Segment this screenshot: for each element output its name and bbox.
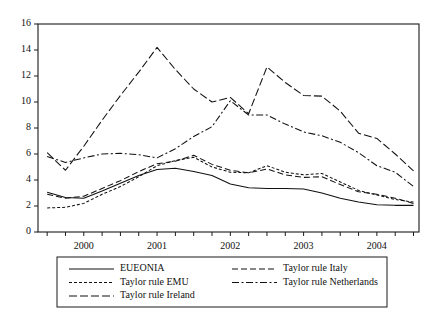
legend-label: EUEONIA [120, 262, 165, 273]
plot-area [38, 24, 419, 232]
data-series-group [47, 47, 413, 208]
legend-label: Taylor rule EMU [120, 276, 190, 287]
y-tick-label: 0 [26, 225, 31, 236]
legend-label: Taylor rule Italy [283, 262, 348, 273]
y-tick-label: 14 [21, 43, 31, 54]
series-line-eueonia [47, 168, 413, 205]
line-chart: 0246810121416 20002001200220032004 EUEON… [0, 0, 432, 324]
y-tick-label: 10 [21, 95, 31, 106]
x-tick-label: 2000 [74, 240, 94, 251]
y-tick-label: 8 [26, 121, 31, 132]
x-tick-label: 2002 [220, 240, 240, 251]
series-line-taylor-rule-italy [47, 155, 413, 203]
series-line-taylor-rule-netherlands [47, 101, 413, 187]
y-tick-label: 4 [26, 173, 31, 184]
x-tick-label: 2003 [294, 240, 314, 251]
chart-legend: EUEONIATaylor rule EMUTaylor rule Irelan… [57, 257, 387, 307]
series-line-taylor-rule-emu [47, 157, 413, 208]
legend-label: Taylor rule Netherlands [283, 276, 378, 287]
x-tick-label: 2001 [147, 240, 167, 251]
y-tick-label: 12 [21, 69, 31, 80]
y-axis: 0246810121416 [21, 17, 38, 236]
y-tick-label: 6 [26, 147, 31, 158]
x-axis: 20002001200220032004 [47, 232, 413, 251]
y-tick-label: 2 [26, 199, 31, 210]
plot-frame [38, 24, 419, 232]
series-line-taylor-rule-ireland [47, 47, 413, 170]
x-tick-label: 2004 [367, 240, 387, 251]
y-tick-label: 16 [21, 17, 31, 28]
legend-label: Taylor rule Ireland [120, 289, 195, 300]
chart-container: 0246810121416 20002001200220032004 EUEON… [0, 0, 432, 324]
